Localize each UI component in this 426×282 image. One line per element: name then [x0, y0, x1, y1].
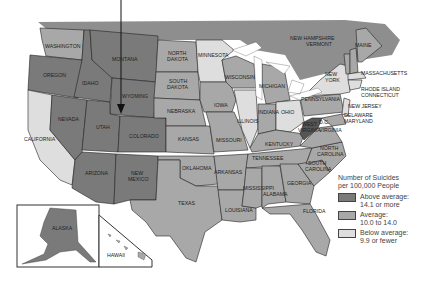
- legend-range: 14.1 or more: [360, 201, 409, 209]
- label-indiana: INDIANA: [258, 109, 280, 115]
- label-nevada: NEVADA: [58, 116, 79, 122]
- label-massachusetts: MASSACHUSETTS: [361, 70, 408, 76]
- label-utah: UTAH: [96, 124, 110, 130]
- label-washington: WASHINGTON: [45, 43, 81, 49]
- state-wisconsin: [222, 56, 256, 88]
- legend-item-below: Below average:9.9 or fewer: [338, 229, 426, 245]
- legend-title-line2: per 100,000 People: [338, 182, 426, 190]
- label-ohio: OHIO: [281, 109, 294, 115]
- label-louisiana: LOUISIANA: [225, 207, 253, 213]
- label-new-york-2: YORK: [325, 77, 340, 83]
- legend-label: Below average:: [360, 229, 408, 237]
- label-vermont: VERMONT: [306, 41, 333, 47]
- label-wisconsin: WISCONSIN: [225, 74, 255, 80]
- label-colorado: COLORADO: [129, 133, 159, 139]
- label-oklahoma: OKLAHOMA: [182, 165, 212, 171]
- label-maine: MAINE: [355, 42, 372, 48]
- legend-title-line1: Number of Suicides: [338, 174, 426, 182]
- label-new-mexico-2: MEXICO: [128, 176, 148, 182]
- label-arkansas: ARKANSAS: [214, 169, 243, 175]
- label-kentucky: KENTUCKY: [265, 141, 294, 147]
- label-west-virginia-2: VIRGINIA: [298, 127, 321, 133]
- label-wyoming: WYOMING: [122, 93, 148, 99]
- label-connecticut: CONNECTICUT: [361, 92, 400, 98]
- label-missouri: MISSOURI: [216, 137, 242, 143]
- state-arizona: [72, 152, 116, 204]
- state-connecticut: [348, 80, 362, 90]
- legend: Number of Suicides per 100,000 People Ab…: [338, 174, 426, 247]
- label-north-carolina-2: CAROLINA: [317, 151, 344, 157]
- label-virginia: VIRGINIA: [319, 127, 342, 133]
- label-tennessee: TENNESSEE: [252, 155, 284, 161]
- label-alaska: ALASKA: [52, 225, 73, 231]
- label-minnesota: MINNESOTA: [198, 52, 229, 58]
- legend-swatch-above: [338, 193, 356, 202]
- label-georgia: GEORGIA: [287, 180, 312, 186]
- label-montana: MONTANA: [112, 56, 138, 62]
- label-north-dakota-2: DAKOTA: [167, 56, 188, 62]
- label-california: CALIFORNIA: [24, 136, 56, 142]
- label-alabama: ALABAMA: [263, 191, 288, 197]
- label-dc: D.C.: [319, 119, 329, 125]
- label-new-jersey: NEW JERSEY: [348, 103, 382, 109]
- legend-item-average: Average:10.0 to 14.0: [338, 211, 426, 227]
- label-hawaii: HAWAII: [107, 252, 125, 258]
- label-idaho: IDAHO: [82, 80, 98, 86]
- label-iowa: IOWA: [214, 102, 228, 108]
- legend-swatch-average: [338, 211, 356, 220]
- legend-range: 9.9 or fewer: [360, 237, 408, 245]
- label-pennsylvania: PENNSYLVANIA: [301, 96, 341, 102]
- legend-label: Above average:: [360, 193, 409, 201]
- label-south-dakota-2: DAKOTA: [167, 84, 188, 90]
- legend-swatch-below: [338, 229, 356, 238]
- suicide-rate-map: WASHINGTON OREGON CALIFORNIA IDAHO NEVAD…: [0, 0, 426, 282]
- legend-range: 10.0 to 14.0: [360, 219, 397, 227]
- legend-item-above: Above average:14.1 or more: [338, 193, 426, 209]
- label-nebraska: NEBRASKA: [167, 108, 196, 114]
- label-maryland: MARYLAND: [344, 118, 373, 124]
- label-florida: FLORIDA: [303, 208, 326, 214]
- label-south-carolina-2: CAROLINA: [305, 166, 332, 172]
- label-michigan: MICHIGAN: [259, 83, 285, 89]
- label-texas: TEXAS: [178, 200, 196, 206]
- label-illinois: ILLINOIS: [237, 118, 259, 124]
- legend-title: Number of Suicides per 100,000 People: [338, 174, 426, 190]
- legend-label: Average:: [360, 211, 397, 219]
- label-arizona: ARIZONA: [85, 170, 109, 176]
- label-kansas: KANSAS: [178, 136, 200, 142]
- label-oregon: OREGON: [43, 72, 66, 78]
